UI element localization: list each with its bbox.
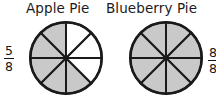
- fraction-label-blueberry: 8 8: [208, 46, 216, 75]
- fraction-numerator-blueberry: 8: [208, 46, 216, 60]
- pie-center-dot-apple: [64, 56, 68, 60]
- pie-center-dot-blueberry: [164, 56, 168, 60]
- fraction-numerator-apple: 5: [4, 44, 14, 58]
- pie-chart-blueberry: [128, 20, 204, 96]
- pie-svg-blueberry: [128, 20, 204, 96]
- pie-svg-apple: [28, 20, 104, 96]
- fraction-label-apple: 5 8: [4, 44, 14, 73]
- pie-title-blueberry: Blueberry Pie: [106, 0, 197, 16]
- fraction-denominator-apple: 8: [4, 60, 14, 73]
- pie-chart-apple: [28, 20, 104, 96]
- figure-canvas: Apple Pie 5 8: [0, 0, 216, 112]
- fraction-denominator-blueberry: 8: [208, 62, 216, 75]
- pie-title-apple: Apple Pie: [26, 0, 90, 16]
